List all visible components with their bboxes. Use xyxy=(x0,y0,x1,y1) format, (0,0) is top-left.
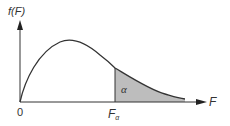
x-axis-arrow-icon xyxy=(196,99,207,105)
origin-label: 0 xyxy=(17,107,23,118)
x-axis-label: F xyxy=(209,96,216,108)
y-axis-label: f(F) xyxy=(8,6,25,17)
y-axis-arrow-icon xyxy=(17,20,23,30)
critical-value-label: Fα xyxy=(108,108,119,121)
density-curve xyxy=(20,40,185,102)
alpha-area-label: α xyxy=(121,84,127,95)
f-distribution-diagram: f(F) F 0 Fα α xyxy=(0,0,230,126)
critical-value-subscript: α xyxy=(115,114,119,121)
